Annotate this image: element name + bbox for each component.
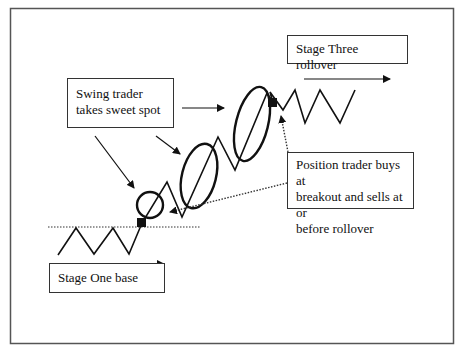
stage-one-text: Stage One base <box>58 270 138 285</box>
position-trader-line-1: Position trader buys at <box>296 157 405 189</box>
swing-circle-1 <box>137 192 163 218</box>
position-trader-label: Position trader buys at breakout and sel… <box>287 152 414 209</box>
swing-trader-line-2: takes sweet spot <box>76 102 165 118</box>
stage-one-label: Stage One base <box>49 263 165 293</box>
breakout-marker-icon <box>137 218 146 227</box>
swing-arrow-to-circle-1 <box>95 136 134 188</box>
swing-ellipse-2 <box>175 140 224 212</box>
position-trader-line-2: breakout and sells at or <box>296 189 405 221</box>
position-arrow-to-breakout <box>170 183 287 212</box>
position-arrow-to-rollover <box>281 116 288 152</box>
stage-three-label: Stage Three rollover <box>287 35 408 64</box>
swing-trader-label: Swing trader takes sweet spot <box>67 78 174 128</box>
swing-trader-line-1: Swing trader <box>76 86 165 102</box>
position-trader-line-3: before rollover <box>296 221 405 237</box>
swing-ellipse-3 <box>227 83 276 164</box>
swing-arrow-to-ellipse-2 <box>156 136 180 154</box>
rollover-marker-icon <box>268 98 277 107</box>
